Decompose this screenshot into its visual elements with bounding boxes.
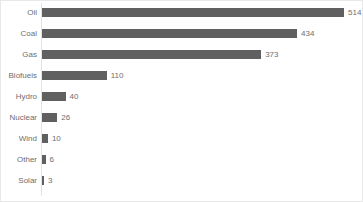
category-label: Solar [1, 170, 37, 191]
bar-row: Gas373 [1, 44, 363, 65]
value-label: 434 [301, 23, 314, 44]
bar-container [42, 107, 57, 128]
bar [42, 92, 66, 101]
value-label: 373 [265, 44, 278, 65]
bar-container [42, 2, 344, 23]
bar [42, 29, 297, 38]
bar-container [42, 149, 46, 170]
value-label: 6 [50, 149, 54, 170]
bar [42, 176, 44, 185]
value-label: 514 [348, 2, 361, 23]
bar-container [42, 44, 261, 65]
bar-container [42, 170, 44, 191]
value-label: 40 [70, 86, 79, 107]
bar [42, 113, 57, 122]
category-label: Oil [1, 2, 37, 23]
bar-container [42, 23, 297, 44]
category-label: Nuclear [1, 107, 37, 128]
bar-row: Solar3 [1, 170, 363, 191]
category-label: Other [1, 149, 37, 170]
category-label: Gas [1, 44, 37, 65]
bar-row: Wind10 [1, 128, 363, 149]
value-label: 110 [111, 65, 124, 86]
value-label: 3 [48, 170, 52, 191]
bar [42, 8, 344, 17]
value-label: 26 [61, 107, 70, 128]
bar-chart-figure: Oil514Coal434Gas373Biofuels110Hydro40Nuc… [0, 0, 363, 202]
category-label: Hydro [1, 86, 37, 107]
plot-area: Oil514Coal434Gas373Biofuels110Hydro40Nuc… [1, 1, 363, 202]
bar-row: Other6 [1, 149, 363, 170]
value-label: 10 [52, 128, 61, 149]
bar-container [42, 86, 66, 107]
bar [42, 50, 261, 59]
bar-row: Oil514 [1, 2, 363, 23]
bar [42, 155, 46, 164]
category-label: Biofuels [1, 65, 37, 86]
bar-row: Nuclear26 [1, 107, 363, 128]
category-label: Coal [1, 23, 37, 44]
bar-container [42, 65, 107, 86]
bar [42, 71, 107, 80]
category-label: Wind [1, 128, 37, 149]
bar-row: Hydro40 [1, 86, 363, 107]
bar-container [42, 128, 48, 149]
bar-row: Coal434 [1, 23, 363, 44]
bar-row: Biofuels110 [1, 65, 363, 86]
bar [42, 134, 48, 143]
